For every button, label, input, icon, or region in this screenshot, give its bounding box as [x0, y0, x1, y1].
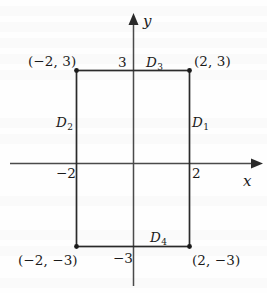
edge-label-d4: D4: [150, 231, 167, 245]
vertex-dot-top-right: [187, 68, 192, 73]
edge-label-d4-name: D: [150, 229, 161, 245]
y-axis-label: y: [143, 14, 151, 29]
x-tick-label-minus-2: −2: [56, 167, 76, 181]
edge-label-d2: D2: [56, 116, 73, 130]
y-tick-label-3: 3: [118, 56, 127, 70]
edge-label-d1-sub: 1: [203, 122, 209, 132]
edge-label-d1-name: D: [192, 114, 203, 130]
x-tick-label-2: 2: [192, 167, 201, 181]
vertex-label-bottom-right: (2, −3): [192, 254, 240, 268]
figure-page: (−2, 3) (2, 3) (−2, −3) (2, −3) 3 −3 −2 …: [0, 0, 267, 293]
vertex-dot-bottom-right: [187, 244, 192, 249]
edge-label-d3-name: D: [146, 54, 157, 70]
vertex-label-top-right: (2, 3): [194, 55, 231, 69]
edge-label-d2-sub: 2: [67, 122, 73, 132]
edge-label-d1: D1: [192, 116, 209, 130]
vertex-label-bottom-left: (−2, −3): [18, 254, 78, 268]
y-tick-label-minus-3: −3: [113, 252, 133, 266]
coordinate-diagram: [0, 0, 267, 293]
y-axis-arrowhead: [129, 13, 139, 25]
vertex-label-top-left: (−2, 3): [28, 55, 76, 69]
edge-label-d2-name: D: [56, 114, 67, 130]
edge-label-d3: D3: [146, 56, 163, 70]
edge-label-d4-sub: 4: [161, 237, 167, 247]
x-axis-arrowhead: [251, 159, 263, 169]
vertex-dot-bottom-left: [74, 244, 79, 249]
x-axis-label: x: [243, 174, 251, 189]
edge-label-d3-sub: 3: [157, 62, 163, 72]
